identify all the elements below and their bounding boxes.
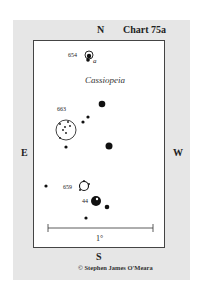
object-654-icon <box>85 51 93 62</box>
cluster-663-icon <box>56 120 76 140</box>
star-icon <box>105 205 110 210</box>
star-icon <box>106 143 113 150</box>
star-icon <box>81 120 84 123</box>
star-icon <box>44 184 47 187</box>
bright-star-44-icon <box>91 196 101 206</box>
cluster-659-icon <box>79 180 90 191</box>
star-icon <box>86 115 89 118</box>
star-icon <box>99 101 106 108</box>
star-map <box>0 0 203 293</box>
star-icon <box>64 145 67 148</box>
field-stars <box>44 101 112 220</box>
scale-bar <box>48 224 153 232</box>
star-icon <box>84 216 87 219</box>
